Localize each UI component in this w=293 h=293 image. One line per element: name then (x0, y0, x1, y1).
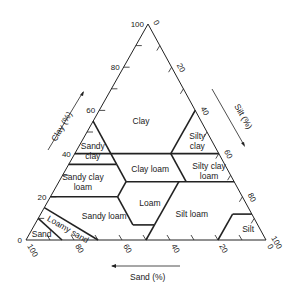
class-label-silt-loam: Silt loam (176, 209, 209, 219)
boundary-silt-left (218, 214, 233, 240)
sand-tick-label: 20 (217, 243, 230, 256)
clay-tick-label: 40 (62, 150, 71, 159)
class-label-clay-loam: Clay loam (131, 164, 169, 174)
clay-tick-label: 100 (131, 20, 145, 29)
sand-tick-label: 60 (121, 243, 134, 256)
boundary-silt-loam-left (146, 225, 155, 240)
silt-tick-label: 80 (246, 191, 259, 204)
silt-tick (169, 67, 172, 72)
silt-tick (228, 175, 231, 180)
silt-tick-label: 60 (222, 148, 235, 161)
sand-tick (215, 235, 218, 240)
clay-tick-label: 20 (37, 193, 46, 202)
boundary-scl-right (118, 182, 127, 197)
sand-tick (119, 235, 122, 240)
clay-tick-label: 60 (86, 106, 95, 115)
boundary-clay-loam-left (117, 164, 126, 181)
sand-axis-label: Sand (%) (130, 272, 166, 282)
class-label-silt: Silt (242, 224, 254, 234)
class-label-silty-clay: Siltyclay (189, 131, 206, 151)
sand-tick (239, 235, 242, 240)
class-label-sandy-clay: Sandyclay (81, 141, 106, 161)
sand-tick-label: 100 (25, 243, 40, 260)
class-label-silty-clay-loam: Silty clayloam (192, 161, 226, 181)
silt-tick (239, 197, 242, 202)
class-label-sandy-clay-loam: Sandy clayloam (62, 172, 104, 192)
clay-axis-label: Clay (%) (49, 110, 74, 143)
soil-texture-triangle: 001002020804040606060408080201001000Clay… (0, 0, 293, 293)
class-label-clay: Clay (133, 116, 151, 126)
class-label-loam: Loam (139, 198, 160, 208)
class-label-sand: Sand (32, 229, 52, 239)
silt-arrowhead-icon (241, 142, 245, 147)
sand-tick-label: 40 (169, 243, 182, 256)
sand-arrowhead-icon (111, 264, 116, 268)
sand-tick-label: 0 (265, 243, 275, 252)
silt-tick (180, 89, 183, 94)
silt-tick (157, 46, 160, 51)
class-label-sandy-loam: Sandy loam (82, 211, 127, 221)
sand-tick-label: 80 (73, 243, 86, 256)
silt-axis-label: Silt (%) (232, 102, 254, 131)
silt-tick (251, 218, 254, 223)
clay-tick-label: 0 (18, 236, 23, 245)
silt-tick-label: 20 (175, 62, 188, 75)
sand-tick (143, 235, 146, 240)
sand-tick (191, 235, 194, 240)
clay-tick-label: 80 (111, 63, 120, 72)
sand-tick (167, 235, 170, 240)
silt-tick-label: 0 (151, 19, 161, 28)
boundary-clay-loam-right (171, 154, 186, 182)
silt-tick-label: 40 (198, 105, 211, 118)
